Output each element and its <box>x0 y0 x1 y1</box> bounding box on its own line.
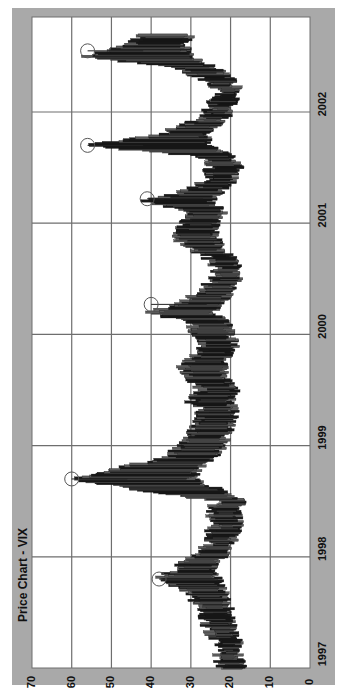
year-tick-label: 2002 <box>316 92 328 116</box>
chart-canvas: 706050403020100199719981999200020012002 <box>0 0 349 698</box>
value-tick-label: 30 <box>184 676 196 688</box>
value-tick-label: 0 <box>303 679 315 685</box>
value-tick-label: 50 <box>104 676 116 688</box>
year-tick-label: 1998 <box>316 537 328 561</box>
value-tick-label: 20 <box>223 676 235 688</box>
chart-title: Price Chart - VIX <box>16 425 36 698</box>
plot-area <box>32 17 310 668</box>
value-tick-label: 10 <box>263 676 275 688</box>
value-tick-label: 40 <box>144 676 156 688</box>
value-tick-label: 60 <box>65 676 77 688</box>
year-tick-label: 2000 <box>316 314 328 338</box>
price-bar <box>138 34 188 36</box>
year-tick-label: 1997 <box>316 642 328 666</box>
figure-caption-faint <box>338 530 349 690</box>
year-tick-label: 2001 <box>316 203 328 227</box>
year-tick-label: 1999 <box>316 425 328 449</box>
